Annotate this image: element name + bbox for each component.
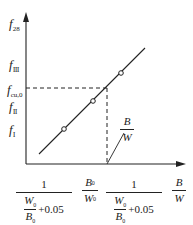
y-axis-arrow-icon	[23, 12, 29, 22]
y-label-f2: fⅡ	[9, 100, 17, 116]
x-label-1: 1 W0 B0 +0.05	[16, 179, 72, 224]
y-label-f1: fⅠ	[9, 123, 15, 139]
data-point	[91, 99, 96, 104]
x-axis-arrow-icon	[176, 161, 186, 167]
y-label-f3: fⅢ	[9, 58, 19, 74]
annotation-b-over-w: B W	[120, 116, 134, 143]
y-label-fcu0: fcu,0	[7, 83, 22, 99]
y-label-f28: f28	[9, 17, 20, 33]
x-label-2: B0 W0	[82, 177, 98, 204]
data-point	[62, 127, 67, 132]
data-point	[119, 71, 124, 76]
x-axis-title: B W	[172, 177, 186, 204]
x-label-3: 1 W0 B0 +0.05	[106, 179, 162, 224]
